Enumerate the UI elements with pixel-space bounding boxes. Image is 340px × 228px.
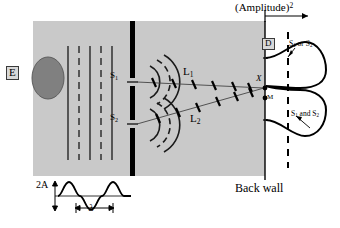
amplitude-axis-label: (Amplitude)2 [235, 2, 293, 13]
diagram-artwork [0, 0, 340, 228]
slit-2-label: S2 [110, 113, 118, 123]
single-curve-index-b: 2 [310, 42, 313, 48]
double-curve-conjunction: and S [298, 109, 317, 118]
source-label: E [6, 66, 19, 80]
back-wall-label: Back wall [235, 182, 283, 194]
point-x-label: X [256, 74, 262, 83]
source-ellipse [32, 57, 64, 99]
amplitude-axis-exponent: 2 [289, 1, 293, 10]
path-1-index: 1 [190, 70, 194, 79]
interference-intensity-curve [266, 42, 326, 136]
barrier [130, 21, 135, 176]
plane-wavefronts [68, 46, 112, 160]
distance-label: D [262, 38, 275, 50]
path-2-label: L2 [190, 113, 200, 125]
single-slit-curve-label: S1 or S2 [289, 40, 312, 48]
amplitude-marker-label: 2A [36, 180, 48, 190]
ray-l2-crest-ticks [156, 88, 253, 123]
amplitude-axis-text: (Amplitude) [235, 1, 289, 13]
point-m-label: M [267, 94, 273, 101]
leader-single [288, 48, 295, 57]
slit-1-index: 1 [115, 75, 118, 81]
path-2-letter: L [190, 112, 197, 124]
wavelength-marker-label: λ [89, 203, 93, 213]
figure-root: E D (Amplitude)2 S1 S2 L1 L2 X M S1 or S… [0, 0, 340, 228]
slit-1-label: S1 [110, 71, 118, 81]
circular-wavefronts-s2 [150, 98, 180, 152]
double-slit-curve-label: S1 and S2 [291, 110, 319, 118]
path-2-index: 2 [197, 117, 201, 126]
double-curve-index-b: 2 [316, 112, 319, 118]
slit-2-index: 2 [115, 117, 118, 123]
path-1-letter: L [183, 65, 190, 77]
path-1-label: L1 [183, 66, 193, 78]
single-curve-conjunction: or S [296, 39, 310, 48]
wavelength-arrow [75, 203, 114, 213]
